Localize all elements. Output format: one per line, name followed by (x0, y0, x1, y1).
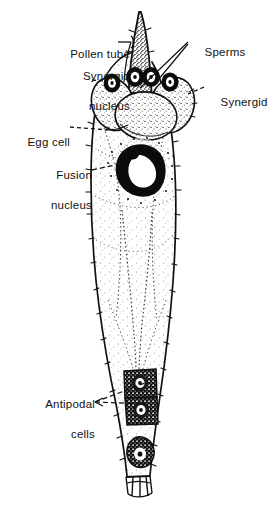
antipodal-cell-upper (124, 369, 157, 398)
label-synergid: Synergid (207, 81, 272, 123)
label-synergid-nucleus-line2: nucleus (89, 100, 130, 112)
antipodal-cell-lower (125, 397, 158, 425)
label-fusion-nucleus-line1: Fusion (56, 169, 92, 181)
label-sperms: Sperms (191, 31, 261, 73)
label-antipodal-cells: Antipodal cells (13, 382, 95, 457)
label-egg-cell-text: Egg cell (27, 136, 70, 148)
label-synergid-nucleus: Synergid nucleus (33, 54, 130, 129)
label-sperms-text: Sperms (205, 46, 246, 58)
synergid-nucleus-right (161, 72, 178, 91)
label-antipodal-cells-line1: Antipodal (45, 398, 95, 410)
figure-canvas: Pollen tube Synergid nucleus Sperms Syne… (0, 0, 272, 518)
label-fusion-nucleus-line2: nucleus (51, 199, 92, 211)
label-fusion-nucleus: Fusion nucleus (17, 153, 92, 228)
label-synergid-nucleus-line1: Synergid (83, 70, 130, 82)
basal-cells (126, 476, 152, 497)
basal-nucleus (127, 437, 154, 468)
label-synergid-text: Synergid (221, 96, 268, 108)
label-antipodal-cells-line2: cells (71, 428, 95, 440)
